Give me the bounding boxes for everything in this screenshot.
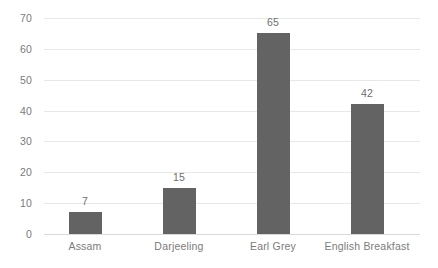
axis-baseline bbox=[44, 234, 420, 235]
y-axis-tick-label: 30 bbox=[0, 136, 32, 147]
bar-earl-grey[interactable] bbox=[257, 33, 290, 234]
plot-area: 7 15 65 42 bbox=[44, 18, 420, 234]
bar-darjeeling[interactable] bbox=[163, 188, 196, 234]
bar-value-earl-grey: 65 bbox=[267, 17, 279, 28]
y-axis-tick-label: 0 bbox=[0, 229, 32, 240]
y-axis-tick-label: 60 bbox=[0, 44, 32, 55]
bar-value-darjeeling: 15 bbox=[173, 171, 185, 182]
bar-chart: 70 60 50 40 30 20 10 0 7 15 65 42 Assam … bbox=[0, 0, 438, 268]
bar-english-breakfast[interactable] bbox=[351, 104, 384, 234]
bar-value-assam: 7 bbox=[82, 196, 88, 207]
y-axis-tick-label: 40 bbox=[0, 105, 32, 116]
x-axis-label-earl-grey: Earl Grey bbox=[250, 241, 296, 252]
bar-value-english-breakfast: 42 bbox=[361, 88, 373, 99]
gridline-50 bbox=[44, 80, 420, 81]
x-axis-label-darjeeling: Darjeeling bbox=[154, 241, 203, 252]
x-axis-label-assam: Assam bbox=[68, 241, 101, 252]
gridline-70 bbox=[44, 18, 420, 19]
y-axis-tick-label: 70 bbox=[0, 13, 32, 24]
gridline-60 bbox=[44, 49, 420, 50]
bar-assam[interactable] bbox=[69, 212, 102, 234]
y-axis-tick-label: 20 bbox=[0, 167, 32, 178]
y-axis-tick-label: 50 bbox=[0, 74, 32, 85]
y-axis-tick-label: 10 bbox=[0, 198, 32, 209]
x-axis-label-english-breakfast: English Breakfast bbox=[324, 241, 409, 252]
